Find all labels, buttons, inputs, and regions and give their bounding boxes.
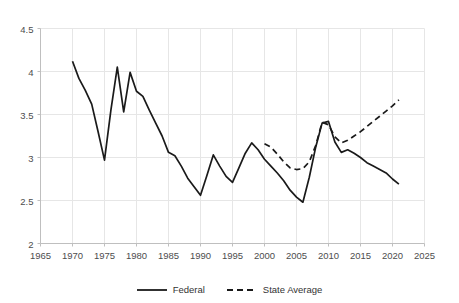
x-axis-tick-label: 1970 <box>62 250 83 261</box>
y-axis-tick-label: 4.5 <box>0 23 34 34</box>
solid-line-icon <box>137 285 167 295</box>
legend-label: State Average <box>263 284 323 295</box>
y-axis-tick-label: 2.5 <box>0 195 34 206</box>
x-axis-tick-label: 2010 <box>318 250 339 261</box>
x-axis-tick-label: 1980 <box>126 250 147 261</box>
line-chart: 22.533.544.5 196519701975198019851990199… <box>0 0 459 303</box>
x-axis-tick-label: 1985 <box>158 250 179 261</box>
x-axis-tick-label: 1990 <box>190 250 211 261</box>
x-axis-tick-label: 1975 <box>94 250 115 261</box>
y-axis-tick-label: 2 <box>0 238 34 249</box>
legend-entry-federal[interactable]: Federal <box>137 284 205 295</box>
chart-legend: FederalState Average <box>0 284 459 295</box>
series-lines <box>73 61 399 202</box>
axis-lines <box>38 29 425 247</box>
series-line-federal <box>73 61 399 202</box>
dashed-line-icon <box>227 285 257 295</box>
y-axis-tick-label: 3 <box>0 152 34 163</box>
y-axis-tick-label: 4 <box>0 66 34 77</box>
legend-entry-state-average[interactable]: State Average <box>227 284 323 295</box>
x-axis-tick-label: 2015 <box>350 250 371 261</box>
x-axis-tick-label: 2000 <box>254 250 275 261</box>
x-axis-tick-label: 1995 <box>222 250 243 261</box>
y-axis-tick-label: 3.5 <box>0 109 34 120</box>
x-axis-tick-label: 1965 <box>30 250 51 261</box>
x-axis-tick-label: 2025 <box>414 250 435 261</box>
legend-label: Federal <box>173 284 205 295</box>
x-axis-tick-label: 2005 <box>286 250 307 261</box>
series-line-state-average <box>265 100 399 170</box>
x-axis-tick-label: 2020 <box>382 250 403 261</box>
grid-lines <box>41 29 425 244</box>
